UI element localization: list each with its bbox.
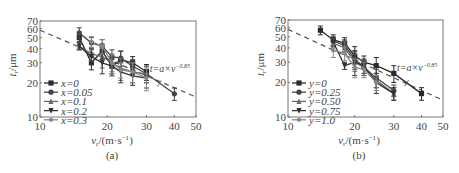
marker-square [419, 91, 424, 96]
y-tick-label: 20 [27, 77, 39, 89]
marker-star [144, 76, 148, 80]
x-label-unit: /(m·s [98, 134, 121, 147]
legend-label: y=1.0 [308, 114, 336, 126]
y-label-unit: /μm [254, 53, 266, 71]
annotation-exponent: −0.85 [175, 63, 190, 69]
marker-star [49, 118, 53, 122]
x-tick-label: 20 [349, 120, 361, 132]
marker-square [318, 28, 323, 33]
legend: x=0x=0.05x=0.1x=0.2x=0.3 [44, 77, 93, 126]
fit-annotation: t=a×v−0.85 [397, 62, 437, 73]
x-tick-label: 30 [388, 120, 400, 132]
chart-panel-a: 102030405060701020304050tr/μmvr/(m·s−1)(… [6, 15, 202, 162]
marker-circle [296, 90, 301, 95]
x-label-close: ) [376, 134, 380, 147]
marker-triangle-down [342, 63, 347, 69]
panel-caption: (a) [106, 149, 119, 162]
y-tick-label: 70 [275, 14, 287, 26]
x-tick-label: 10 [283, 120, 295, 132]
panel-caption: (b) [353, 149, 366, 162]
marker-star [374, 80, 378, 84]
marker-star [89, 40, 93, 44]
marker-circle [77, 30, 82, 35]
marker-square [48, 80, 53, 85]
y-axis-label: tr/μm [254, 53, 268, 76]
marker-circle [48, 90, 53, 95]
fit-annotation: t=a×v−0.85 [150, 63, 190, 74]
x-tick-label: 10 [35, 120, 47, 132]
x-tick-label: 40 [169, 120, 181, 132]
marker-star [131, 70, 135, 74]
annotation-base: t=a×v [150, 63, 176, 74]
figure: 102030405060701020304050tr/μmvr/(m·s−1)(… [0, 0, 459, 173]
marker-star [110, 61, 114, 65]
y-tick-label: 70 [27, 15, 39, 27]
x-label-unit: /(m·s [345, 134, 368, 147]
marker-star [353, 65, 357, 69]
marker-square [391, 71, 396, 76]
x-tick-label: 20 [102, 120, 114, 132]
legend: y=0y=0.25y=0.50y=0.75y=1.0 [292, 77, 341, 126]
x-tick-label: 40 [416, 120, 428, 132]
x-tick-label: 30 [141, 120, 153, 132]
marker-square [374, 63, 379, 68]
y-tick-label: 40 [27, 43, 39, 55]
x-tick-label: 50 [191, 120, 203, 132]
marker-square [296, 80, 301, 85]
annotation-exponent: −0.85 [423, 62, 438, 68]
y-tick-label: 20 [275, 76, 287, 88]
y-label-unit: /μm [6, 53, 18, 71]
x-label-close: ) [129, 134, 133, 147]
marker-star [119, 68, 123, 72]
marker-circle [172, 91, 177, 96]
y-tick-label: 30 [275, 56, 287, 68]
x-axis-label: vr/(m·s−1) [338, 134, 380, 148]
marker-star [331, 48, 335, 52]
marker-star [362, 67, 366, 71]
marker-star [297, 118, 301, 122]
chart-panel-b: 102030405060701020304050tr/μmvr/(m·s−1)(… [254, 14, 449, 162]
legend-label: x=0.3 [60, 114, 88, 126]
annotation-base: t=a×v [397, 62, 423, 73]
marker-star [343, 51, 347, 55]
marker-star [100, 44, 104, 48]
y-axis-label: tr/μm [6, 53, 20, 76]
x-tick-label: 50 [438, 120, 450, 132]
y-tick-label: 30 [27, 57, 39, 69]
y-tick-label: 40 [275, 42, 287, 54]
x-axis-label: vr/(m·s−1) [91, 134, 133, 148]
